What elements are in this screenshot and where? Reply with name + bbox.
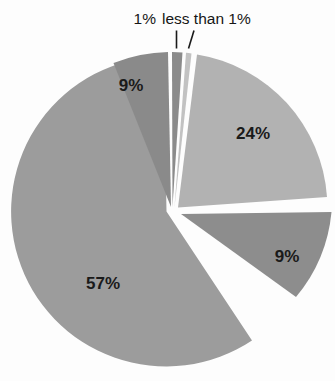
pie-chart-figure: 1% less than 1% 24% 9% 57% 9% bbox=[0, 0, 335, 381]
pie-chart-svg: 1% less than 1% 24% 9% 57% 9% bbox=[0, 0, 335, 381]
slice-label-24-percent: 24% bbox=[236, 124, 270, 143]
slice-label-57-percent: 57% bbox=[86, 274, 120, 293]
slice-label-9-percent-upper-left: 9% bbox=[119, 76, 144, 95]
callout-label-less-than-1-percent: less than 1% bbox=[162, 10, 251, 27]
callout-label-1-percent: 1% bbox=[134, 10, 157, 27]
leader-line-less-than-1-percent bbox=[189, 31, 195, 49]
slice-label-9-percent-right: 9% bbox=[275, 247, 300, 266]
